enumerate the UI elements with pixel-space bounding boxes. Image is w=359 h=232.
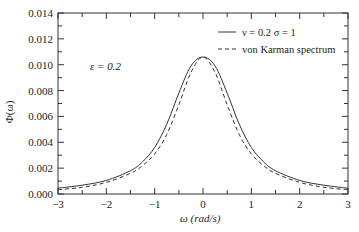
- x-tick-label: −3: [52, 198, 64, 210]
- x-tick-label: −1: [149, 198, 161, 210]
- y-tick-label: 0.014: [28, 7, 53, 19]
- x-tick-label: 1: [249, 198, 255, 210]
- x-axis-label: ω (rad/s): [180, 212, 221, 225]
- spectrum-chart: −3−2−10123 0.0000.0020.0040.0060.0080.01…: [0, 0, 359, 232]
- y-tick-label: 0.010: [28, 59, 53, 71]
- y-tick-labels: 0.0000.0020.0040.0060.0080.0100.0120.014: [28, 7, 53, 200]
- legend-label-solid: ν = 0.2 σ = 1: [242, 27, 296, 38]
- plot-frame: [58, 13, 348, 194]
- x-tick-label: 3: [345, 198, 351, 210]
- legend: ν = 0.2 σ = 1 von Karman spectrum: [218, 27, 335, 55]
- y-tick-label: 0.002: [28, 162, 53, 174]
- y-tick-label: 0.012: [28, 33, 53, 45]
- von-karman-curve: [58, 57, 348, 190]
- y-tick-label: 0.000: [28, 188, 53, 200]
- x-tick-label: 0: [200, 198, 206, 210]
- x-tick-label: −2: [100, 198, 112, 210]
- annotation-epsilon: ε = 0.2: [90, 60, 122, 72]
- x-tick-label: 2: [297, 198, 303, 210]
- legend-label-dashed: von Karman spectrum: [242, 44, 335, 55]
- y-tick-label: 0.006: [28, 110, 53, 122]
- axis-ticks: [58, 13, 348, 194]
- solid-spectrum-curve: [58, 57, 348, 188]
- data-curves: [58, 57, 348, 190]
- y-axis-label: Φ(ω): [3, 100, 16, 123]
- y-tick-label: 0.008: [28, 85, 53, 97]
- x-tick-labels: −3−2−10123: [52, 198, 351, 210]
- y-tick-label: 0.004: [28, 136, 53, 148]
